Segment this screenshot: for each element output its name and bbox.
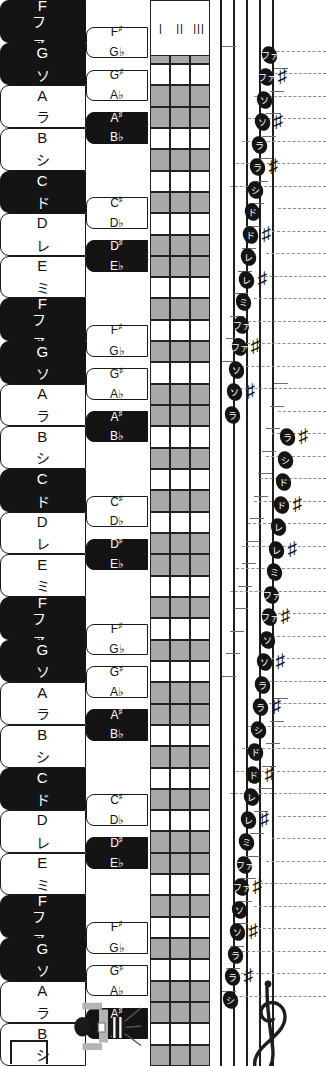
key-kana-label: レ [36, 533, 50, 553]
piano-black-key-asharp[interactable]: A♯B♭ [86, 411, 148, 443]
key-latin-label: G [37, 641, 49, 658]
piano-white-key-c[interactable]: Cド [0, 768, 86, 811]
sharp-accidental-icon: ♯ [246, 382, 256, 401]
piano-white-key-e[interactable]: Eミ [0, 554, 86, 597]
piano-black-key-fsharp[interactable]: F♯G♭ [86, 624, 148, 656]
piano-black-key-gsharp[interactable]: G♯A♭ [86, 666, 148, 698]
key-flat-label: B♭ [110, 429, 124, 443]
piano-white-key-f[interactable]: Fファ [0, 0, 86, 43]
sharp-accidental-icon: ♯ [278, 67, 288, 86]
key-flat-label: A♭ [110, 88, 124, 102]
key-flat-label: E♭ [110, 856, 124, 870]
piano-black-key-asharp[interactable]: A♯B♭ [86, 112, 148, 144]
sharp-accidental-icon: ♯ [250, 337, 260, 356]
key-latin-label: C [37, 769, 48, 786]
piano-white-key-e[interactable]: Eミ [0, 853, 86, 896]
piano-white-key-a[interactable]: Aラ [0, 384, 86, 427]
key-kana-label: ド [36, 192, 50, 212]
string-mark: || [176, 22, 184, 34]
key-sharp-label: G♯ [110, 366, 123, 381]
note-kana-label: レ [274, 521, 283, 534]
key-kana-label: ソ [36, 65, 50, 85]
note-kana-label: ド [249, 206, 258, 219]
key-sharp-label: F♯ [111, 24, 122, 39]
piano-white-key-e[interactable]: Eミ [0, 256, 86, 299]
key-latin-label: A [38, 87, 49, 104]
sharp-accidental-icon: ♯ [281, 607, 291, 626]
sharp-accidental-icon: ♯ [299, 427, 309, 446]
key-sharp-label: G♯ [110, 664, 123, 679]
piano-black-key-gsharp[interactable]: G♯A♭ [86, 368, 148, 400]
key-latin-label: E [38, 854, 49, 871]
key-latin-label: B [38, 726, 49, 743]
note-kana-label: ファ [233, 318, 251, 331]
sharp-accidental-icon: ♯ [260, 809, 270, 828]
note-kana-label: ソ [263, 633, 272, 646]
note-kana-label: ファ [235, 858, 253, 871]
piano-white-key-g[interactable]: Gソ [0, 938, 86, 981]
piano-white-key-c[interactable]: Cド [0, 469, 86, 512]
piano-black-key-fsharp[interactable]: F♯G♭ [86, 27, 148, 59]
note-kana-label: ソ [232, 363, 241, 376]
note-kana-label: ソ [235, 903, 244, 916]
note-kana-label: レ [244, 251, 253, 264]
key-flat-label: G♭ [109, 642, 124, 656]
piano-white-key-g[interactable]: Gソ [0, 43, 86, 86]
key-latin-label: B [38, 428, 49, 445]
piano-black-key-csharp[interactable]: C♯D♭ [86, 496, 148, 528]
key-sharp-label: G♯ [110, 963, 123, 978]
key-latin-label: C [37, 470, 48, 487]
piano-white-key-f[interactable]: Fファ [0, 597, 86, 640]
piano-black-key-dsharp[interactable]: D♯E♭ [86, 240, 148, 272]
key-flat-label: G♭ [109, 45, 124, 59]
piano-white-key-a[interactable]: Aラ [0, 85, 86, 128]
key-latin-label: D [37, 215, 48, 232]
piano-white-key-d[interactable]: Dレ [0, 810, 86, 853]
piano-black-key-csharp[interactable]: C♯D♭ [86, 197, 148, 229]
machine-head-icon [60, 990, 156, 1062]
piano-white-key-g[interactable]: Gソ [0, 341, 86, 384]
note-kana-label: ラ [256, 701, 265, 714]
key-kana-label: ソ [36, 661, 50, 681]
piano-white-key-d[interactable]: Dレ [0, 213, 86, 256]
piano-white-key-g[interactable]: Gソ [0, 640, 86, 683]
key-flat-label: E♭ [110, 557, 124, 571]
sharp-accidental-icon: ♯ [262, 224, 272, 243]
staff-end-bracket [10, 1040, 48, 1064]
piano-black-key-fsharp[interactable]: F♯G♭ [86, 922, 148, 954]
note-kana-label: ソ [233, 926, 242, 939]
piano-white-key-d[interactable]: Dレ [0, 512, 86, 555]
key-latin-label: D [37, 811, 48, 828]
key-kana-label: レ [36, 235, 50, 255]
piano-white-key-f[interactable]: Fファ [0, 298, 86, 341]
piano-white-key-a[interactable]: Aラ [0, 682, 86, 725]
piano-black-key-gsharp[interactable]: G♯A♭ [86, 70, 148, 102]
piano-black-key-asharp[interactable]: A♯B♭ [86, 709, 148, 741]
key-latin-label: G [37, 939, 49, 956]
diagram-stage: シラ♯ラソ♯ソファ♯ファミレ♯レド♯ドシラ♯ラソ♯ソファ♯ファミレ♯レド♯ドシラ… [0, 0, 326, 1066]
piano-white-key-b[interactable]: Bシ [0, 725, 86, 768]
key-latin-label: A [38, 385, 49, 402]
key-sharp-label: F♯ [111, 621, 122, 636]
key-kana-label: シ [36, 149, 50, 169]
key-latin-label: A [38, 684, 49, 701]
piano-black-key-fsharp[interactable]: F♯G♭ [86, 325, 148, 357]
piano-black-key-csharp[interactable]: C♯D♭ [86, 794, 148, 826]
key-flat-label: G♭ [109, 940, 124, 954]
key-kana-label: ソ [36, 363, 50, 383]
piano-white-key-f[interactable]: Fファ [0, 895, 86, 938]
note-kana-label: ミ [242, 836, 251, 849]
key-sharp-label: C♯ [111, 493, 124, 508]
piano-white-key-b[interactable]: Bシ [0, 426, 86, 469]
key-sharp-label: D♯ [111, 238, 124, 253]
piano-white-key-b[interactable]: Bシ [0, 128, 86, 171]
piano-black-key-dsharp[interactable]: D♯E♭ [86, 837, 148, 869]
key-sharp-label: C♯ [111, 195, 124, 210]
note-kana-label: ド [246, 228, 255, 241]
note-kana-label: ド [279, 476, 288, 489]
note-kana-label: レ [244, 813, 253, 826]
key-kana-label: ソ [36, 960, 50, 980]
sharp-accidental-icon: ♯ [292, 494, 302, 513]
piano-white-key-c[interactable]: Cド [0, 171, 86, 214]
piano-black-key-dsharp[interactable]: D♯E♭ [86, 539, 148, 571]
